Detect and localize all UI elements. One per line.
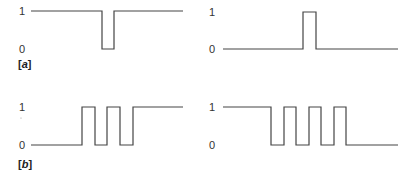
y-label-low: 0: [19, 139, 25, 151]
y-label-low: 0: [209, 139, 215, 151]
waveform-diagram: 1 0 [a] 1 0 1 0 [b] 1 0: [0, 0, 418, 178]
y-label-low: 0: [19, 43, 25, 55]
waveform-line: [31, 11, 183, 49]
y-label-high: 1: [209, 6, 215, 18]
y-label-high: 1: [19, 101, 25, 113]
panel-b-right: 1 0: [209, 101, 398, 151]
panel-a-left: 1 0: [19, 5, 183, 55]
scan-speck: [20, 117, 21, 118]
y-label-low: 0: [209, 43, 215, 55]
row-tag-b: [b]: [18, 158, 32, 170]
waveform-line: [223, 12, 398, 49]
row-tag-a: [a]: [18, 58, 32, 70]
panel-b-left: 1 0: [19, 101, 183, 151]
waveform-line: [223, 107, 398, 145]
panel-a-right: 1 0: [209, 6, 398, 55]
y-label-high: 1: [19, 5, 25, 17]
y-label-high: 1: [209, 101, 215, 113]
waveform-line: [31, 107, 183, 145]
